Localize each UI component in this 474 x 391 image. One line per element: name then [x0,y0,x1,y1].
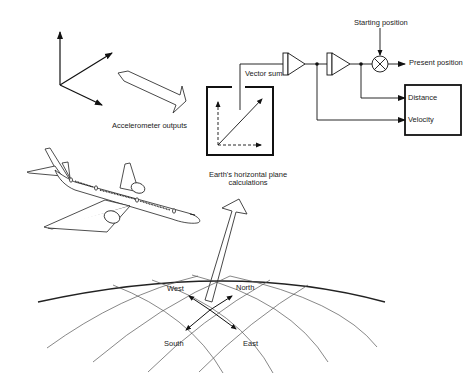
compass-west-label: West [167,285,184,293]
starting-position-label: Starting position [354,19,408,27]
integrator-1 [283,53,305,75]
earth-plane-label-line2: calculations [200,179,296,187]
accelerometer-outputs-label: Accelerometer outputs [112,122,187,130]
compass-south-label: South [164,340,184,348]
present-position-label: Present position [409,59,463,67]
accelerometer-axes [60,32,112,105]
earth-plane-label: Earth's horizontal plane calculations [200,171,296,188]
inertial-navigation-diagram [0,0,474,391]
velocity-label: Velocity [408,116,434,124]
summing-junction [372,56,388,72]
airplane [27,148,200,232]
distance-label: Distance [408,94,437,102]
compass-north-label: North [236,284,254,292]
accelerometer-output-arrow [118,71,186,113]
vector-sum-label: Vector sum [245,70,283,78]
compass-east-label: East [243,340,258,348]
integrator-2 [327,53,350,75]
